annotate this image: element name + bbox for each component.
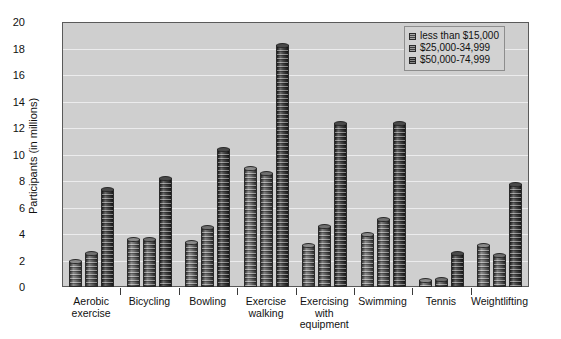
x-tick-label: Weightlifting (470, 296, 529, 331)
bar-cap (69, 259, 82, 264)
bar (509, 184, 522, 287)
bar-chart: Participants (in millions) 0246810121416… (0, 0, 561, 339)
bar-cap (435, 277, 448, 282)
x-tick-label: Tennis (412, 296, 470, 331)
bar-cap (361, 232, 374, 237)
legend-swatch-icon (409, 45, 416, 52)
bar-group (62, 22, 120, 287)
bar-group (120, 22, 178, 287)
bar-cap (101, 187, 114, 192)
bar-cap (143, 237, 156, 242)
x-tick-label: Bowling (179, 296, 237, 331)
legend-item: less than $15,000 (409, 30, 499, 42)
bar (276, 45, 289, 287)
bar-cap (276, 43, 289, 48)
legend: less than $15,000$25,000-34,999$50,000-7… (404, 26, 505, 71)
bar (260, 173, 273, 287)
bar-group (237, 22, 295, 287)
y-tick-label: 2 (0, 256, 25, 266)
bar-cap (127, 237, 140, 242)
bar (477, 245, 490, 287)
y-tick-label: 20 (0, 17, 25, 27)
legend-item: $50,000-74,999 (409, 54, 499, 66)
y-tick-label: 16 (0, 70, 25, 80)
bar (101, 189, 114, 287)
bar-cap (451, 251, 464, 256)
bar (85, 253, 98, 287)
x-axis-separators (62, 288, 529, 295)
bar (244, 168, 257, 287)
bar (127, 239, 140, 287)
bar-cap (244, 166, 257, 171)
bar (377, 219, 390, 287)
bar (302, 245, 315, 287)
bar-cap (201, 225, 214, 230)
y-tick-label: 14 (0, 97, 25, 107)
bar-cap (334, 121, 347, 126)
bar (435, 279, 448, 287)
bar-cap (318, 224, 331, 229)
x-axis-separator (179, 288, 180, 295)
bar (318, 226, 331, 287)
y-axis-title: Participants (in millions) (27, 71, 39, 241)
y-tick-label: 8 (0, 176, 25, 186)
bar-cap (85, 251, 98, 256)
bar (493, 255, 506, 287)
bar (143, 239, 156, 287)
bar (69, 261, 82, 288)
x-tick-label: Exercisewalking (237, 296, 295, 331)
legend-label: $50,000-74,999 (420, 54, 490, 66)
bar-cap (419, 278, 432, 283)
y-tick-label: 18 (0, 44, 25, 54)
bar-cap (302, 243, 315, 248)
bar-group (296, 22, 354, 287)
x-axis-separator (412, 288, 413, 295)
x-tick-label: Exercisingwithequipment (295, 296, 353, 331)
x-axis-separator (120, 288, 121, 295)
x-axis-separator (296, 288, 297, 295)
bar-cap (509, 182, 522, 187)
bar-cap (185, 240, 198, 245)
bar (451, 253, 464, 287)
bar-group (179, 22, 237, 287)
x-axis-separator (354, 288, 355, 295)
x-axis-separator (471, 288, 472, 295)
legend-swatch-icon (409, 33, 416, 40)
bar-cap (393, 121, 406, 126)
x-tick-label: Bicycling (120, 296, 178, 331)
x-tick-label: Swimming (353, 296, 411, 331)
bar-cap (159, 176, 172, 181)
y-tick-label: 10 (0, 150, 25, 160)
x-tick-label: Aerobicexercise (62, 296, 120, 331)
x-axis-separator (237, 288, 238, 295)
bar-cap (377, 217, 390, 222)
bar-cap (260, 171, 273, 176)
legend-swatch-icon (409, 57, 416, 64)
bar-cap (217, 147, 230, 152)
y-tick-label: 6 (0, 203, 25, 213)
legend-item: $25,000-34,999 (409, 42, 499, 54)
y-tick-label: 4 (0, 229, 25, 239)
bar-cap (477, 243, 490, 248)
bar (419, 280, 432, 287)
bar-cap (493, 253, 506, 258)
bar (217, 149, 230, 287)
bar (201, 227, 214, 287)
bar (185, 242, 198, 287)
legend-label: $25,000-34,999 (420, 42, 490, 54)
x-axis-tick-labels: AerobicexerciseBicyclingBowlingExercisew… (62, 296, 529, 331)
y-tick-label: 0 (0, 282, 25, 292)
bar (334, 123, 347, 287)
y-tick-label: 12 (0, 123, 25, 133)
bar (393, 123, 406, 287)
bar (361, 234, 374, 287)
legend-label: less than $15,000 (420, 30, 499, 42)
bar (159, 178, 172, 287)
